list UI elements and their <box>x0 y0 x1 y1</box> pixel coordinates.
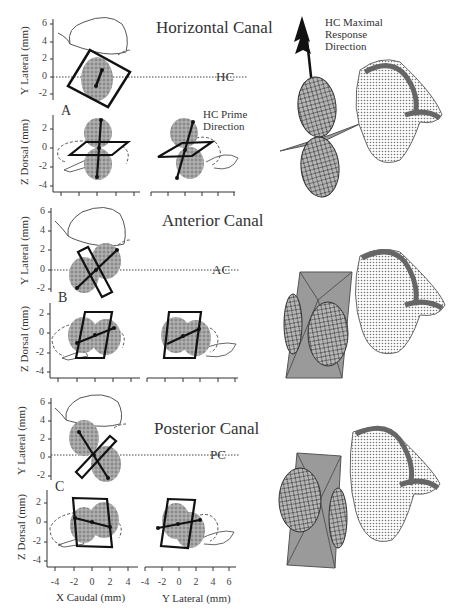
tick: 6 <box>31 396 45 407</box>
panel-a-canal-label: HC <box>216 69 234 85</box>
panel-c-z-dorsal-axis-label: Z Dorsal (mm) <box>15 494 27 560</box>
tick: 0 <box>31 263 45 274</box>
x-tick: 0 <box>84 576 100 587</box>
x-tick: 6 <box>221 576 237 587</box>
tick: -2 <box>30 346 44 357</box>
tick: 2 <box>27 496 41 507</box>
tick: 2 <box>30 307 44 318</box>
tick: 0 <box>33 141 47 152</box>
tick: 6 <box>31 205 45 216</box>
x-tick: 0 <box>171 576 187 587</box>
panel-b-3d-model <box>284 249 445 378</box>
tick: 4 <box>33 35 47 46</box>
panel-a-title: Horizontal Canal <box>156 18 273 38</box>
tick: 2 <box>33 52 47 63</box>
tick: -4 <box>30 365 44 376</box>
panel-a-bottom-left-plot <box>50 115 140 196</box>
tick: -2 <box>31 282 45 293</box>
tick: -2 <box>27 535 41 546</box>
panel-b-bottom-left-plot <box>47 303 140 382</box>
panel-b-title: Anterior Canal <box>162 211 264 231</box>
tick: 2 <box>31 432 45 443</box>
x-tick: 2 <box>102 576 118 587</box>
y-lateral-bottom-axis-label: Y Lateral (mm) <box>162 592 231 604</box>
panel-b-bottom-right-plot <box>147 312 238 382</box>
x-tick: 4 <box>120 576 136 587</box>
panel-a-prime-direction-note: HC Prime Direction <box>203 108 247 132</box>
tick: 0 <box>31 450 45 461</box>
tick: 2 <box>31 243 45 254</box>
tick: 0 <box>30 326 44 337</box>
panel-b-canal-label: AC <box>212 262 230 278</box>
panel-b-y-lateral-axis-label: Y Lateral (mm) <box>18 216 30 285</box>
panel-b-z-dorsal-axis-label: Z Dorsal (mm) <box>18 306 30 372</box>
panel-c-bottom-left-plot <box>44 490 138 571</box>
tick: -4 <box>33 179 47 190</box>
tick: 2 <box>33 122 47 133</box>
panel-a-maximal-response-note: HC Maximal Response Direction <box>325 16 383 52</box>
panel-a-label: A <box>61 103 71 119</box>
panel-c-y-lateral-axis-label: Y Lateral (mm) <box>15 406 27 475</box>
panel-c-canal-label: PC <box>210 447 226 463</box>
tick: 0 <box>33 70 47 81</box>
x-tick: 4 <box>205 576 221 587</box>
tick: 0 <box>27 515 41 526</box>
panel-c-3d-model <box>279 427 440 568</box>
x-tick: -4 <box>47 576 63 587</box>
panel-a-y-lateral-axis-label: Y Lateral (mm) <box>18 26 30 95</box>
x-tick: 2 <box>188 576 204 587</box>
tick: 6 <box>33 17 47 28</box>
x-tick: -2 <box>66 576 82 587</box>
tick: 4 <box>31 414 45 425</box>
x-caudal-axis-label: X Caudal (mm) <box>56 591 125 603</box>
panel-b-label: B <box>58 290 67 306</box>
tick: 4 <box>31 224 45 235</box>
tick: -2 <box>33 160 47 171</box>
tick: -2 <box>33 87 47 98</box>
x-tick: -4 <box>137 576 153 587</box>
panel-c-bottom-right-plot <box>145 499 236 571</box>
x-tick: -2 <box>154 576 170 587</box>
tick: -4 <box>27 554 41 565</box>
panel-c-title: Posterior Canal <box>154 419 259 439</box>
figure-graphics <box>0 0 459 613</box>
tick: -2 <box>31 469 45 480</box>
panel-c-label: C <box>55 479 64 495</box>
panel-a-z-dorsal-axis-label: Z Dorsal (mm) <box>18 119 30 185</box>
